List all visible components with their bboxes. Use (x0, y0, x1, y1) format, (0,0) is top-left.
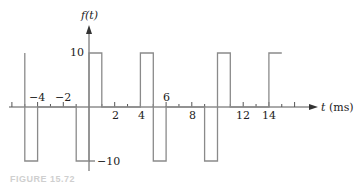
y-axis-arrow-icon (86, 25, 92, 34)
x-tick-label: 8 (189, 109, 196, 122)
x-tick-label: 14 (262, 109, 276, 122)
x-tick-label: 6 (163, 91, 170, 104)
waveform-line (25, 53, 282, 161)
x-tick-label: −4 (29, 91, 45, 104)
figure-caption: FIGURE 15.72 (10, 174, 75, 184)
x-tick-label: 2 (112, 109, 119, 122)
chart: f(t) 10 −10 −4 −2 2 4 6 8 12 14 t (ms) F… (0, 0, 355, 184)
x-axis-unit: (ms) (325, 101, 353, 114)
y-tick-label-pos: 10 (70, 46, 84, 59)
y-axis-label: f(t) (80, 9, 98, 22)
x-tick-label: 12 (236, 109, 250, 122)
x-axis-label: t (ms) (321, 101, 354, 114)
x-tick-label: −2 (55, 91, 71, 104)
y-tick-label-neg: −10 (97, 155, 120, 168)
x-tick-label: 4 (138, 109, 145, 122)
x-axis-arrow-icon (309, 104, 318, 110)
